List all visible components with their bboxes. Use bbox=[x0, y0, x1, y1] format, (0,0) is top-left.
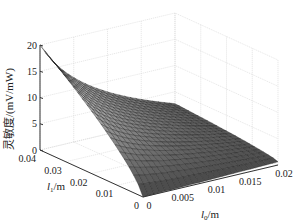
z-tick-label: 15 bbox=[27, 66, 37, 77]
y-tick-label: 0.04 bbox=[19, 153, 37, 164]
x-tick-label: 0.005 bbox=[172, 192, 195, 203]
z-tick-label: 20 bbox=[27, 40, 37, 51]
x-tick-label: 0.02 bbox=[275, 168, 293, 179]
y-tick-label: 0 bbox=[134, 200, 139, 211]
x-tick-label: 0.01 bbox=[208, 184, 226, 195]
y-tick-label: 0.01 bbox=[96, 188, 114, 199]
x-tick-label: 0 bbox=[147, 200, 152, 211]
surface-plot: 0510152000.010.020.030.0400.0050.010.015… bbox=[0, 0, 306, 223]
z-tick-label: 5 bbox=[32, 118, 37, 129]
surface-mesh bbox=[40, 45, 278, 197]
y-tick-label: 0.03 bbox=[44, 165, 62, 176]
x-tick-label: 0.015 bbox=[239, 176, 262, 187]
x-axis-label-l0: l0/m bbox=[201, 208, 220, 222]
y-tick-label: 0.02 bbox=[70, 177, 88, 188]
z-tick-label: 10 bbox=[27, 92, 37, 103]
x-axis-label-unit: /m bbox=[208, 208, 220, 220]
z-axis-label: 灵敏度/(mV/mW) bbox=[2, 68, 16, 150]
y-axis-label-unit: /m bbox=[54, 180, 66, 192]
y-axis-label-l1: l1/m bbox=[47, 180, 66, 194]
